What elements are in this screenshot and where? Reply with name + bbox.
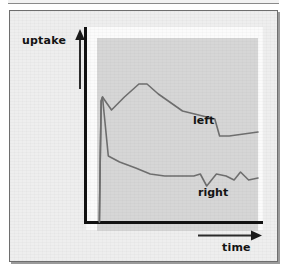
series-line-left <box>99 84 258 222</box>
series-line-right <box>99 97 258 222</box>
figure-panel: uptake time left right <box>9 10 278 262</box>
top-divider-rule <box>8 0 279 4</box>
up-arrow-icon <box>75 29 85 89</box>
chart-vector-layer <box>10 11 279 263</box>
x-axis-label: time <box>222 241 251 254</box>
series-label-right: right <box>198 186 228 199</box>
figure-root: uptake time left right <box>0 0 287 280</box>
right-arrow-icon <box>198 231 262 241</box>
y-axis-label: uptake <box>22 34 66 47</box>
series-label-left: left <box>193 114 214 127</box>
